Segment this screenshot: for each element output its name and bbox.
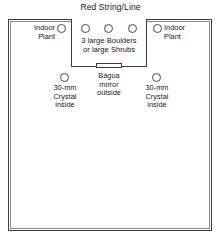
red-string-line-caption: Red String/Line (0, 2, 221, 12)
boulders-label-line1: 3 large Boulders (71, 36, 147, 45)
indoor-plant-left-marker-icon (57, 24, 66, 33)
boulders-label-line2: or large Shrubs (71, 45, 147, 54)
indoor-plant-left-label-line2: Plant (12, 33, 55, 42)
diagram-canvas: Red String/Line 3 large Boulders or larg… (0, 0, 221, 241)
indoor-plant-right-marker-icon (153, 24, 162, 33)
bagua-mirror-label-line3: outside (82, 89, 136, 98)
boulder-marker-icon (104, 24, 113, 33)
boulder-marker-icon (128, 24, 137, 33)
crystal-left-label-line3: inside (35, 101, 95, 110)
bagua-mirror-label: Bagua mirror outside (82, 72, 136, 98)
indoor-plant-left-label: Indoor Plant (12, 24, 55, 41)
crystal-right-label-line3: inside (127, 101, 187, 110)
boulder-marker-icon (81, 24, 90, 33)
indoor-plant-right-label: Indoor Plant (164, 24, 214, 41)
crystal-right-marker-icon (152, 73, 161, 82)
crystal-right-label: 30-mm Crystal inside (127, 84, 187, 110)
gate-opening (96, 63, 122, 68)
boulders-label: 3 large Boulders or large Shrubs (71, 36, 147, 55)
indoor-plant-right-label-line2: Plant (164, 33, 214, 42)
crystal-left-marker-icon (60, 73, 69, 82)
